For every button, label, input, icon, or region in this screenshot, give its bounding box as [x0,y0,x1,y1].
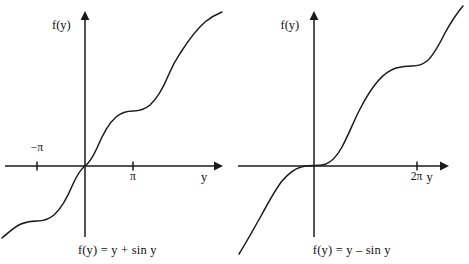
plot-left [0,0,234,264]
caption-right: f(y) = y – sin y [235,243,469,258]
tick-label-two-pi: 2π [400,170,434,182]
panel-right: f(y) y 2π f(y) = y – sin y [235,0,469,264]
figure-pair: f(y) y −π π f(y) = y + sin y f(y) y 2π [0,0,469,264]
y-axis-label-right: f(y) [281,18,300,33]
y-axis-label-left: f(y) [52,18,71,33]
x-axis-label-left: y [201,170,207,185]
plot-right [235,0,469,264]
y-axis-right [309,11,318,237]
panel-left: f(y) y −π π f(y) = y + sin y [0,0,235,264]
tick-label-pi: π [118,170,148,182]
y-axis-left [81,11,90,237]
curve-y-minus-sin-y [239,6,463,254]
tick-label-neg-pi: −π [22,141,52,153]
caption-left: f(y) = y + sin y [0,243,235,258]
curve-y-plus-sin-y [2,12,222,238]
